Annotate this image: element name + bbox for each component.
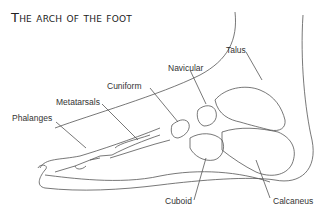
cuniform-leader (150, 88, 178, 122)
navicular-leader (190, 70, 206, 104)
label-navicular: Navicular (168, 63, 203, 73)
cuboid-leader (194, 158, 206, 200)
label-cuniform: Cuniform (107, 81, 141, 91)
metatarsals-bone (110, 135, 170, 158)
cuniform-bone (171, 120, 189, 138)
talus-leader (246, 52, 262, 80)
label-phalanges: Phalanges (12, 113, 52, 123)
label-talus: Talus (226, 45, 246, 55)
foot-illustration (0, 0, 325, 217)
cuboid-bone (190, 134, 224, 161)
shin-outline (55, 12, 236, 128)
sole-outline (45, 172, 270, 182)
label-calcaneus: Calcaneus (273, 196, 313, 206)
talus-bone (215, 87, 285, 130)
label-metatarsals: Metatarsals (56, 97, 100, 107)
navicular-bone (197, 106, 216, 126)
metatarsals-leader (102, 104, 138, 140)
label-cuboid: Cuboid (165, 196, 192, 206)
phalanges-leader (56, 122, 86, 148)
phalanges-bone (55, 155, 112, 172)
calcaneus-bone (222, 128, 294, 175)
